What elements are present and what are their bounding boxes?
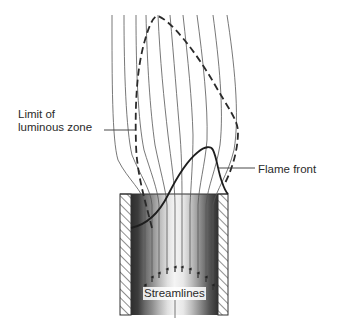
streamlines-label: Streamlines	[143, 287, 206, 300]
luminous-zone-label: Limit of luminous zone	[18, 108, 92, 134]
luminous-label-line1: Limit of	[18, 108, 92, 121]
left-wall	[120, 194, 131, 315]
right-wall	[218, 194, 228, 315]
luminous-label-line2: luminous zone	[18, 121, 92, 134]
flame-front-label: Flame front	[258, 163, 316, 176]
